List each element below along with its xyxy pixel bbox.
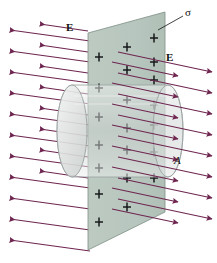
field-label-left: E <box>66 22 73 33</box>
area-label: A <box>174 155 181 166</box>
surface-charge-density-label: σ <box>185 7 191 18</box>
gaussian-cylinder <box>57 85 183 177</box>
field-label-right: E <box>166 52 173 63</box>
gauss-law-figure <box>0 0 217 263</box>
